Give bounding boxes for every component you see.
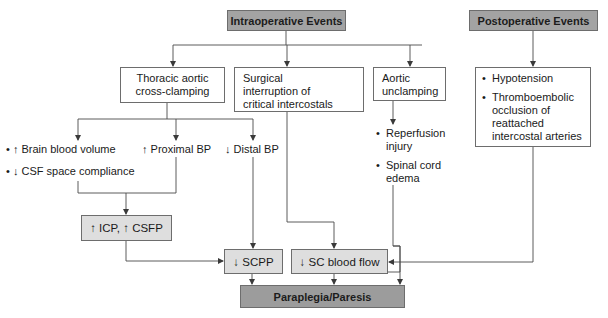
thoracic-line-1: Thoracic aortic <box>125 72 220 85</box>
brain-blood-volume-text: • ↑ Brain blood volume <box>6 143 116 156</box>
postop-item-thromboembolic: • Thromboembolic occlusion of reattached… <box>482 91 584 143</box>
proximal-bp-text: ↑ Proximal BP <box>142 143 211 156</box>
reperfusion-line-2: injury <box>386 140 445 153</box>
aortic-line-2: unclamping <box>382 85 437 98</box>
sc-blood-flow-box: ↓ SC blood flow <box>291 249 388 274</box>
icp-to-scpp <box>126 241 223 261</box>
reperfusion-line-1: Reperfusion <box>386 127 445 140</box>
bullet: • <box>482 91 492 143</box>
intraoperative-events-label: Intraoperative Events <box>231 15 343 27</box>
surgical-line-3: critical intercostals <box>243 98 355 111</box>
thrombo-line-1: Thromboembolic <box>492 91 582 104</box>
surgical-line-1: Surgical <box>243 72 355 85</box>
postoperative-events-label: Postoperative Events <box>478 15 590 27</box>
edema-line-1: Spinal cord <box>386 159 441 172</box>
scpp-box: ↓ SCPP <box>224 249 283 274</box>
postoperative-events-header: Postoperative Events <box>469 10 598 31</box>
csf-compliance-text: • ↓ CSF space compliance <box>6 165 135 178</box>
intraoperative-events-header: Intraoperative Events <box>227 10 346 31</box>
edema-down <box>393 185 400 284</box>
icp-csfp-box: ↑ ICP, ↑ CSFP <box>81 215 172 241</box>
postoperative-causes-box: • Hypotension • Thromboembolic occlusion… <box>475 67 591 147</box>
bullet: • <box>376 127 386 153</box>
aortic-line-1: Aortic <box>382 72 437 85</box>
surgical-line-2: interruption of <box>243 85 355 98</box>
aortic-unclamping-box: Aortic unclamping <box>373 67 446 101</box>
icp-csfp-label: ↑ ICP, ↑ CSFP <box>90 222 163 234</box>
postop-item-hypotension: • Hypotension <box>482 72 584 85</box>
thromboembolic-text: Thromboembolic occlusion of reattached i… <box>492 91 582 143</box>
thoracic-cross-clamping-box: Thoracic aortic cross-clamping <box>120 67 225 103</box>
thrombo-line-4: intercostal arteries <box>492 130 582 143</box>
thoracic-line-2: cross-clamping <box>125 85 220 98</box>
thrombo-line-2: occlusion of <box>492 104 582 117</box>
paraplegia-paresis-box: Paraplegia/Paresis <box>240 285 405 308</box>
hypotension-text: Hypotension <box>492 72 553 85</box>
edema-line-2: edema <box>386 172 441 185</box>
bullet: • <box>482 72 492 85</box>
thrombo-line-3: reattached <box>492 117 582 130</box>
sc-blood-flow-label: ↓ SC blood flow <box>300 256 380 268</box>
outcome-label: Paraplegia/Paresis <box>274 291 372 303</box>
surgical-to-scflow <box>287 112 334 248</box>
surgical-interruption-box: Surgical interruption of critical interc… <box>234 67 364 112</box>
reperfusion-injury-text: • Reperfusion injury <box>376 127 445 153</box>
bullet: • <box>376 159 386 185</box>
scpp-label: ↓ SCPP <box>233 256 273 268</box>
distal-bp-text: ↓ Distal BP <box>225 143 279 156</box>
crossing-bracket <box>388 246 400 272</box>
spinal-cord-edema-text: • Spinal cord edema <box>376 159 441 185</box>
